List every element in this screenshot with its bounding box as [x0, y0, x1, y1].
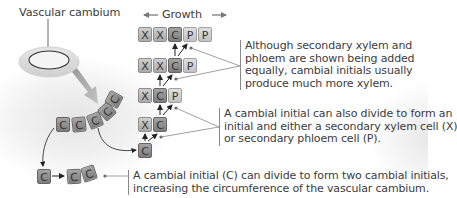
phloem-cell: P: [168, 88, 182, 103]
cambial-initial-cell: C: [153, 88, 167, 103]
phloem-cell: P: [183, 27, 197, 42]
vascular-cambium-label: Vascular cambium: [19, 6, 120, 19]
zoom-arrow: [72, 68, 98, 104]
note-line: A cambial initial (C) can divide to form…: [133, 170, 449, 183]
xylem-cell: X: [138, 117, 152, 132]
xylem-cell: X: [138, 27, 152, 42]
note-line: Although secondary xylem and: [245, 40, 414, 53]
cambial-initial-cell: C: [168, 27, 182, 42]
phloem-cell: P: [198, 27, 212, 42]
note-line: or secondary phloem cell (P).: [224, 133, 457, 146]
xylem-cell: X: [153, 27, 167, 42]
phloem-cell: P: [183, 58, 197, 73]
note-initial-division: A cambial initial can also divide to for…: [219, 108, 457, 146]
cambial-initial-cell: C: [138, 143, 152, 158]
arc-cell: C: [56, 117, 70, 132]
note-line: equally, cambial initials usually: [245, 65, 414, 78]
cambial-initial-cell: C: [168, 58, 182, 73]
xylem-cell: X: [153, 58, 167, 73]
note-line: produce much more xylem.: [245, 78, 414, 91]
cambial-initial-cell: C: [37, 169, 51, 184]
cambium-ellipse: [29, 51, 69, 69]
note-circumference: A cambial initial (C) can divide to form…: [128, 170, 449, 195]
cambial-initial-cell: C: [153, 117, 167, 132]
note-xylem-production: Although secondary xylem and phloem are …: [240, 40, 414, 90]
arc-cell: C: [71, 116, 86, 132]
note-line: increasing the circumference of the vasc…: [133, 183, 449, 196]
cambial-initial-cell: C: [66, 169, 81, 185]
note-line: A cambial initial can also divide to for…: [224, 108, 457, 121]
xylem-cell: X: [138, 58, 152, 73]
xylem-cell: X: [138, 88, 152, 103]
growth-label: Growth: [162, 8, 202, 21]
